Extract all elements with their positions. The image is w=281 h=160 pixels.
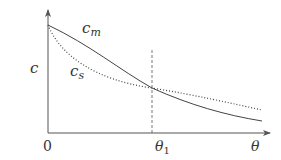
diagram: c cm cs 0 θ1 θ [0,0,281,160]
theta1-label-subscript: 1 [163,145,169,156]
origin-label: 0 [43,138,52,154]
curve-c-m-label: cm [82,19,101,39]
curve-c-s [48,25,262,110]
curve-c-s-label: cs [70,62,84,82]
y-axis-label: c [30,59,39,77]
theta1-label: θ1 [155,138,170,156]
curve-c-m-label-subscript: m [90,26,100,39]
curve-c-s-label-subscript: s [78,69,84,82]
x-axis-label: θ [251,138,260,154]
